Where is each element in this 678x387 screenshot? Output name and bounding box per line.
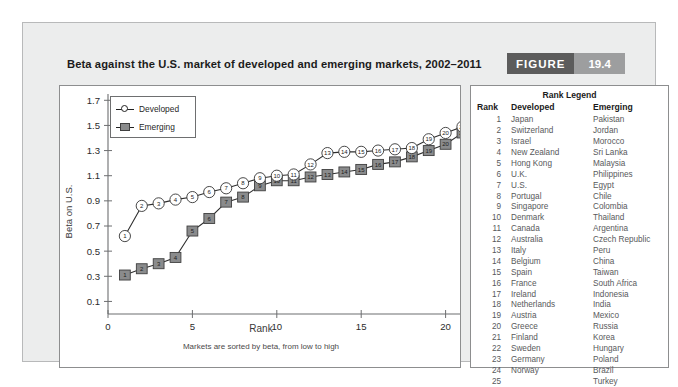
cell-rank: 9 [477, 202, 511, 213]
cell-rank: 22 [477, 344, 511, 355]
cell-emerging: South Africa [593, 278, 662, 289]
cell-rank: 17 [477, 289, 511, 300]
cell-emerging: Philippines [593, 169, 662, 180]
rank-legend-panel: Rank Legend Rank Developed Emerging 1Jap… [470, 85, 669, 368]
table-row: 25Turkey [477, 376, 662, 387]
cell-emerging: Argentina [593, 224, 662, 235]
table-row: 18NetherlandsIndia [477, 300, 662, 311]
cell-emerging: Korea [593, 333, 662, 344]
cell-emerging: Colombia [593, 202, 662, 213]
table-row: 14BelgiumChina [477, 257, 662, 268]
table-row: 8PortugalChile [477, 191, 662, 202]
cell-rank: 14 [477, 257, 511, 268]
svg-text:0.5: 0.5 [87, 246, 100, 257]
svg-text:20: 20 [442, 130, 449, 136]
cell-emerging: India [593, 300, 662, 311]
cell-rank: 7 [477, 180, 511, 191]
cell-emerging: Peru [593, 246, 662, 257]
table-row: 7U.S.Egypt [477, 180, 662, 191]
svg-text:15: 15 [358, 167, 365, 173]
cell-developed: Finland [511, 333, 593, 344]
svg-text:11: 11 [291, 172, 298, 178]
figure-panel: Beta against the U.S. market of develope… [22, 22, 656, 362]
column-header-emerging: Emerging [593, 102, 662, 115]
cell-rank: 15 [477, 267, 511, 278]
cell-developed: Hong Kong [511, 159, 593, 170]
table-row: 9SingaporeColombia [477, 202, 662, 213]
svg-text:13: 13 [324, 172, 331, 178]
svg-text:0.3: 0.3 [87, 271, 100, 282]
cell-developed: Canada [511, 224, 593, 235]
cell-rank: 16 [477, 278, 511, 289]
svg-text:1.3: 1.3 [87, 145, 100, 156]
cell-rank: 4 [477, 148, 511, 159]
cell-rank: 24 [477, 365, 511, 376]
cell-developed: Spain [511, 267, 593, 278]
svg-text:14: 14 [341, 149, 348, 155]
cell-emerging: Czech Republic [593, 235, 662, 246]
cell-developed: Israel [511, 137, 593, 148]
legend-label-developed: Developed [139, 104, 179, 114]
svg-text:15: 15 [358, 149, 365, 155]
cell-rank: 20 [477, 322, 511, 333]
svg-text:0.9: 0.9 [87, 195, 100, 206]
cell-developed: Ireland [511, 289, 593, 300]
svg-text:20: 20 [442, 141, 449, 147]
svg-text:13: 13 [324, 150, 331, 156]
cell-developed: U.K. [511, 169, 593, 180]
cell-rank: 23 [477, 355, 511, 366]
svg-text:17: 17 [392, 147, 399, 153]
svg-text:19: 19 [425, 148, 432, 154]
cell-rank: 2 [477, 126, 511, 137]
legend-item-emerging: Emerging [116, 118, 191, 136]
table-row: 12AustraliaCzech Republic [477, 235, 662, 246]
open-circle-marker-icon [116, 104, 134, 114]
table-row: 10DenmarkThailand [477, 213, 662, 224]
cell-developed: Singapore [511, 202, 593, 213]
svg-text:0.7: 0.7 [87, 220, 100, 231]
cell-developed: Denmark [511, 213, 593, 224]
table-row: 23GermanyPoland [477, 355, 662, 366]
svg-text:1.1: 1.1 [87, 170, 100, 181]
table-row: 1JapanPakistan [477, 115, 662, 126]
cell-emerging: Malaysia [593, 159, 662, 170]
table-row: 11CanadaArgentina [477, 224, 662, 235]
table-header-row: Rank Developed Emerging [477, 102, 662, 115]
svg-text:10: 10 [273, 173, 280, 179]
cell-emerging: Poland [593, 355, 662, 366]
rank-legend-body: 1JapanPakistan2SwitzerlandJordan3IsraelM… [477, 115, 662, 387]
svg-text:16: 16 [375, 162, 382, 168]
cell-emerging: Chile [593, 191, 662, 202]
cell-rank: 6 [477, 169, 511, 180]
table-row: 20GreeceRussia [477, 322, 662, 333]
cell-emerging: Hungary [593, 344, 662, 355]
cell-rank: 25 [477, 376, 511, 387]
cell-rank: 1 [477, 115, 511, 126]
legend-label-emerging: Emerging [139, 122, 175, 132]
cell-developed: France [511, 278, 593, 289]
cell-rank: 21 [477, 333, 511, 344]
svg-text:14: 14 [341, 169, 348, 175]
cell-developed: Sweden [511, 344, 593, 355]
cell-rank: 19 [477, 311, 511, 322]
cell-developed [511, 376, 593, 387]
cell-developed: Japan [511, 115, 593, 126]
cell-emerging: Indonesia [593, 289, 662, 300]
cell-rank: 10 [477, 213, 511, 224]
table-row: 15SpainTaiwan [477, 267, 662, 278]
x-axis-sublabel: Markets are sorted by beta, from low to … [60, 342, 461, 351]
cell-rank: 5 [477, 159, 511, 170]
cell-developed: Norway [511, 365, 593, 376]
figure-badge-word: FIGURE [507, 53, 574, 74]
table-row: 21FinlandKorea [477, 333, 662, 344]
table-row: 16FranceSouth Africa [477, 278, 662, 289]
svg-text:12: 12 [307, 162, 314, 168]
cell-rank: 8 [477, 191, 511, 202]
cell-rank: 11 [477, 224, 511, 235]
rank-legend-title: Rank Legend [477, 90, 662, 100]
svg-text:21: 21 [459, 124, 461, 130]
cell-emerging: Morocco [593, 137, 662, 148]
filled-square-marker-icon [116, 122, 134, 132]
cell-developed: Australia [511, 235, 593, 246]
